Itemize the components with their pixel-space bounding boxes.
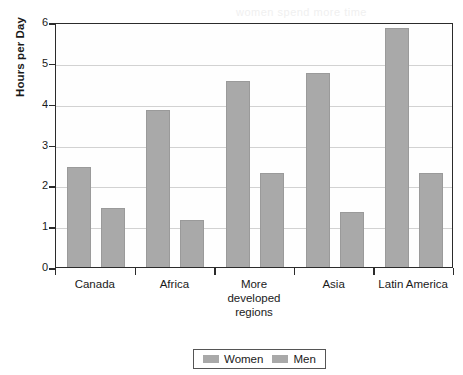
plot-area xyxy=(55,23,453,268)
bar-women-1 xyxy=(146,110,170,267)
bar-men-4 xyxy=(419,173,443,267)
legend: Women Men xyxy=(193,349,326,369)
bar-men-2 xyxy=(260,173,284,267)
x-tick-mark-1 xyxy=(135,268,136,275)
x-tick-mark-edge-5 xyxy=(453,268,454,275)
x-tick-mark-edge-0 xyxy=(55,268,56,275)
x-tick-mark-4 xyxy=(373,268,374,275)
x-tick-mark-3 xyxy=(294,268,295,275)
bar-men-0 xyxy=(101,208,125,267)
legend-item-women: Women xyxy=(203,353,263,365)
bar-women-0 xyxy=(67,167,91,267)
x-category-label-0: Canada xyxy=(55,277,135,291)
y-tick-label-4: 4 xyxy=(28,98,48,110)
x-category-label-3: Asia xyxy=(294,277,374,291)
y-tick-label-5: 5 xyxy=(28,57,48,69)
x-category-label-1: Africa xyxy=(135,277,215,291)
bar-men-1 xyxy=(180,220,204,267)
y-tick-label-1: 1 xyxy=(28,220,48,232)
bar-women-2 xyxy=(226,81,250,267)
bar-women-3 xyxy=(306,73,330,267)
legend-swatch-men xyxy=(272,355,288,363)
bar-men-3 xyxy=(340,212,364,267)
bleed-text-line-1: women spend more time xyxy=(236,6,367,18)
x-category-label-4: Latin America xyxy=(373,277,453,291)
y-tick-label-2: 2 xyxy=(28,179,48,191)
y-tick-label-6: 6 xyxy=(28,16,48,28)
x-category-label-2: More developed regions xyxy=(214,277,294,319)
legend-label-men: Men xyxy=(293,353,315,365)
x-tick-mark-2 xyxy=(214,268,215,275)
legend-swatch-women xyxy=(203,355,219,363)
bar-women-4 xyxy=(385,28,409,267)
y-tick-label-3: 3 xyxy=(28,139,48,151)
legend-item-men: Men xyxy=(272,353,315,365)
legend-label-women: Women xyxy=(224,353,263,365)
bar-chart-figure: women spend more time in developing coun… xyxy=(0,0,463,375)
y-tick-label-0: 0 xyxy=(28,261,48,273)
